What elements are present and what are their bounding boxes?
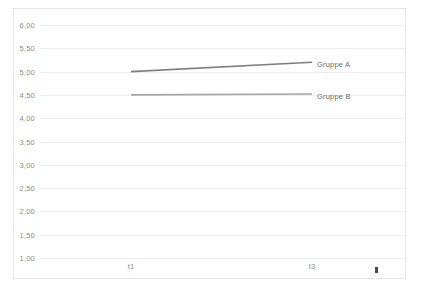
series-label: Gruppe B — [317, 92, 351, 101]
cursor-mark — [375, 267, 378, 273]
series-label: Gruppe A — [317, 60, 350, 69]
series-line — [131, 62, 312, 71]
series-line — [131, 94, 312, 95]
series-lines — [0, 0, 422, 294]
chart-screenshot: 6,005,505,004,504,003,503,002,502,001,50… — [0, 0, 422, 294]
